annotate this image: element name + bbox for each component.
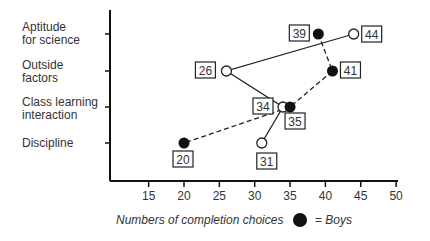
boys-series-line <box>184 34 332 143</box>
chart-plot: 15202530354045503944264134352031 <box>0 0 430 241</box>
x-tick-label: 50 <box>389 189 403 203</box>
x-tick-label: 15 <box>142 189 156 203</box>
legend-boys-marker-icon <box>293 213 307 227</box>
data-value-label: 20 <box>176 153 190 167</box>
x-tick-label: 40 <box>319 189 333 203</box>
boys-point-marker <box>179 138 190 149</box>
boys-point-marker <box>313 29 324 40</box>
x-tick-label: 20 <box>177 189 191 203</box>
girls-point-marker <box>349 29 359 39</box>
girls-point-marker <box>257 138 267 148</box>
x-tick-label: 45 <box>354 189 368 203</box>
data-value-label: 41 <box>344 64 358 78</box>
data-value-label: 26 <box>199 64 213 78</box>
x-tick-label: 35 <box>283 189 297 203</box>
legend-boys-label: = Boys <box>315 213 352 227</box>
girls-point-marker <box>221 66 231 76</box>
boys-point-marker <box>327 66 338 77</box>
x-axis-label: Numbers of completion choices <box>116 213 283 227</box>
data-value-label: 34 <box>256 100 270 114</box>
x-tick-label: 30 <box>248 189 262 203</box>
boys-point-marker <box>285 102 296 113</box>
data-value-label: 31 <box>260 155 274 169</box>
data-value-label: 39 <box>293 27 307 41</box>
data-value-label: 44 <box>365 28 379 42</box>
x-tick-label: 25 <box>213 189 227 203</box>
data-value-label: 35 <box>288 115 302 129</box>
